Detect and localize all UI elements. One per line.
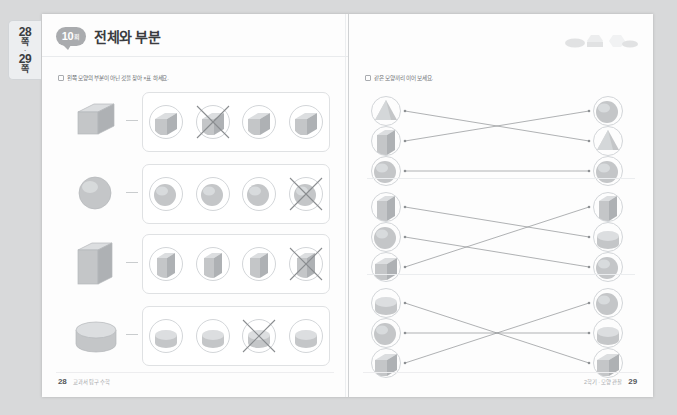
match-right-prism-part[interactable] [593, 192, 623, 222]
match-shape-icon [593, 156, 623, 190]
option-cube-part-b[interactable] [193, 102, 233, 142]
match-right-cube-part[interactable] [593, 348, 623, 378]
lesson-number: 10 [62, 30, 73, 42]
option-cylinder-part-c[interactable] [239, 316, 279, 356]
match-shape-icon [593, 126, 623, 160]
option-cylinder-part-d[interactable] [286, 316, 326, 356]
right-footer: 2학기 · 모양 관찰 29 [584, 377, 637, 386]
decorative-shapes-icon [565, 32, 639, 48]
tab-page-to: 29 [19, 53, 31, 65]
option-shape-icon [244, 107, 274, 141]
bullet-square-icon [365, 75, 371, 81]
match-right-sphere-part[interactable] [593, 288, 623, 318]
option-cube-part-c[interactable] [239, 102, 279, 142]
match-left-cube-part[interactable] [371, 348, 401, 378]
option-shape-icon [198, 179, 228, 213]
matching-group [349, 186, 653, 278]
connector-dash [126, 192, 138, 193]
match-shape-icon [371, 318, 401, 352]
match-right-sphere-part[interactable] [593, 252, 623, 282]
match-shape-icon [593, 288, 623, 322]
left-page: 10 회 전체와 부분 왼쪽 모양의 부분이 아닌 것을 찾아 ×표 하세요. … [42, 14, 348, 397]
left-footer-note: 교과서 탐구 수학 [73, 378, 110, 386]
option-cylinder-part-b[interactable] [193, 316, 233, 356]
lesson-unit: 회 [74, 32, 80, 41]
group-divider [367, 178, 635, 179]
match-shape-icon [371, 222, 401, 256]
option-cube-part-d[interactable] [286, 102, 326, 142]
match-shape-icon [371, 288, 401, 322]
option-box [142, 306, 330, 366]
connector-dash [126, 120, 138, 121]
page-title: 전체와 부분 [94, 26, 161, 46]
lesson-number-badge: 10 회 [56, 27, 86, 46]
match-left-sphere-part[interactable] [371, 222, 401, 252]
match-shape-icon [593, 318, 623, 352]
connector-dash [126, 262, 138, 263]
cylinder-shape-icon [68, 308, 122, 362]
matching-group [349, 282, 653, 374]
match-shape-icon [593, 192, 623, 226]
option-shape-icon [151, 321, 181, 355]
option-shape-icon [291, 179, 321, 213]
option-sphere-part-c[interactable] [239, 174, 279, 214]
option-box [142, 234, 330, 294]
option-shape-icon [151, 107, 181, 141]
option-prism-part-d[interactable] [286, 244, 326, 284]
cube-shape-icon [68, 94, 122, 148]
left-instruction: 왼쪽 모양의 부분이 아닌 것을 찾아 ×표 하세요. [58, 74, 169, 82]
right-footer-divider [363, 372, 639, 373]
match-shape-icon [371, 192, 401, 226]
right-instruction-text: 같은 모양끼리 이어 보세요. [374, 74, 433, 82]
match-right-cone-part[interactable] [593, 126, 623, 156]
lesson-header: 10 회 전체와 부분 [56, 26, 161, 46]
option-cylinder-part-a[interactable] [146, 316, 186, 356]
match-left-cube-part[interactable] [371, 252, 401, 282]
left-footer-divider [56, 372, 334, 373]
exercise-row [42, 232, 348, 294]
match-right-cylinder-part[interactable] [593, 318, 623, 348]
page-range-tab[interactable]: 28 쪽 · 29 쪽 [8, 20, 41, 80]
left-instruction-text: 왼쪽 모양의 부분이 아닌 것을 찾아 ×표 하세요. [67, 74, 169, 82]
option-sphere-part-d[interactable] [286, 174, 326, 214]
bullet-square-icon [58, 75, 64, 81]
match-right-sphere-part[interactable] [593, 156, 623, 186]
option-shape-icon [151, 249, 181, 283]
exercise-row [42, 162, 348, 224]
option-shape-icon [198, 249, 228, 283]
option-shape-icon [198, 321, 228, 355]
exercise-row [42, 90, 348, 152]
match-left-cone-part[interactable] [371, 96, 401, 126]
match-shape-icon [371, 126, 401, 160]
match-left-sphere-part[interactable] [371, 156, 401, 186]
option-shape-icon [244, 249, 274, 283]
option-cube-part-a[interactable] [146, 102, 186, 142]
match-left-sphere-part[interactable] [371, 318, 401, 348]
match-right-sphere-part[interactable] [593, 96, 623, 126]
match-shape-icon [593, 222, 623, 256]
option-prism-part-c[interactable] [239, 244, 279, 284]
right-instruction: 같은 모양끼리 이어 보세요. [365, 74, 433, 82]
option-shape-icon [291, 107, 321, 141]
tab-unit-bottom: 쪽 [21, 65, 29, 74]
option-sphere-part-a[interactable] [146, 174, 186, 214]
sphere-shape-icon [68, 166, 122, 220]
connector-dash [126, 334, 138, 335]
match-left-prism-part[interactable] [371, 192, 401, 222]
option-sphere-part-b[interactable] [193, 174, 233, 214]
option-prism-part-b[interactable] [193, 244, 233, 284]
option-prism-part-a[interactable] [146, 244, 186, 284]
option-shape-icon [244, 179, 274, 213]
book-spread: 10 회 전체와 부분 왼쪽 모양의 부분이 아닌 것을 찾아 ×표 하세요. … [42, 14, 653, 397]
matching-group [349, 90, 653, 182]
match-left-cylinder-part[interactable] [371, 288, 401, 318]
option-shape-icon [198, 107, 228, 141]
match-right-cylinder-part[interactable] [593, 222, 623, 252]
option-shape-icon [244, 321, 274, 355]
match-shape-icon [593, 252, 623, 286]
option-shape-icon [291, 321, 321, 355]
option-box [142, 92, 330, 152]
option-shape-icon [151, 179, 181, 213]
match-shape-icon [371, 348, 401, 382]
match-left-prism-part[interactable] [371, 126, 401, 156]
